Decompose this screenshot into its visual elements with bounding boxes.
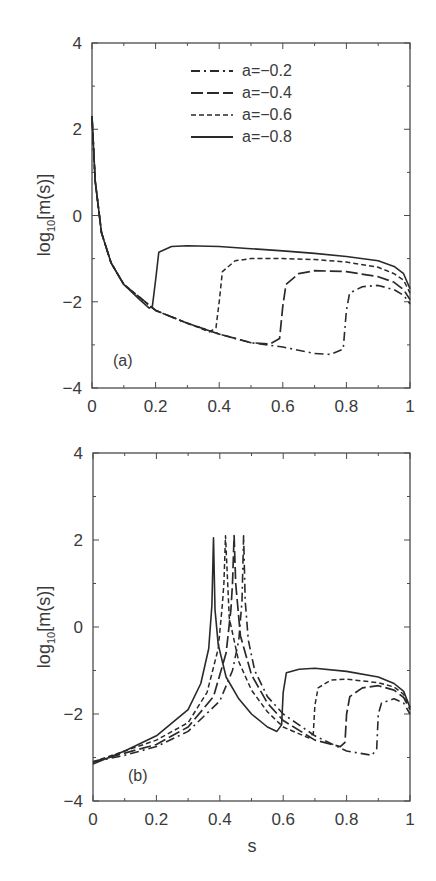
y-tick-label: 2 — [74, 531, 83, 550]
x-tick-labels-a: 00.20.40.60.81 — [87, 397, 414, 416]
figure: 420−2−4 00.20.40.60.81 log10[m(s)] (a) a… — [0, 0, 436, 881]
ylabel-subscript: 10 — [45, 632, 57, 644]
y-tick-label: 0 — [73, 207, 82, 226]
y-tick-label: 4 — [73, 34, 82, 53]
ylabel-a: log10[m(s)] — [34, 174, 57, 256]
x-tick-label: 0.8 — [335, 397, 359, 416]
legend-label: a=−0.4 — [242, 84, 292, 101]
ylabel-log: log — [34, 644, 54, 668]
ylabel-log: log — [34, 232, 54, 256]
y-tick-label: −4 — [64, 792, 83, 811]
x-tick-label: 0.6 — [271, 397, 295, 416]
series-line-a-0-4 — [93, 536, 410, 762]
series-line-a-0-6 — [93, 536, 410, 762]
x-tick-label: 0.4 — [207, 397, 231, 416]
x-tick-label: 0.2 — [144, 397, 168, 416]
y-tick-label: 4 — [74, 444, 83, 463]
y-tick-label: −4 — [63, 379, 82, 398]
legend-label: a=−0.8 — [242, 128, 292, 145]
x-tick-label: 1 — [405, 397, 414, 416]
x-tick-label: 0.8 — [335, 810, 359, 829]
y-tick-labels-a: 420−2−4 — [63, 34, 82, 398]
series-line-a-0-2 — [92, 116, 410, 354]
x-tick-label: 1 — [405, 810, 414, 829]
panel-a: 420−2−4 00.20.40.60.81 log10[m(s)] (a) a… — [34, 34, 415, 416]
x-tick-label: 0.4 — [208, 810, 232, 829]
series-line-a-0-4 — [92, 116, 410, 344]
x-tick-label: 0.6 — [271, 810, 295, 829]
panel-b: 420−2−4 00.20.40.60.81 log10[m(s)] (b) s — [34, 444, 415, 856]
xlabel-b: s — [248, 836, 257, 856]
panel-label-a: (a) — [113, 352, 133, 369]
ylabel-subscript: 10 — [45, 220, 57, 232]
x-tick-labels-b: 00.20.40.60.81 — [88, 810, 414, 829]
x-tick-label: 0.2 — [145, 810, 169, 829]
ylabel-rest: [m(s)] — [34, 586, 54, 632]
x-tick-label: 0 — [87, 397, 96, 416]
y-tick-labels-b: 420−2−4 — [64, 444, 83, 811]
legend: a=−0.2a=−0.4a=−0.6a=−0.8 — [191, 62, 292, 145]
y-tick-label: 2 — [73, 120, 82, 139]
curves-a — [92, 116, 410, 354]
legend-label: a=−0.6 — [242, 106, 292, 123]
panel-label-b: (b) — [128, 767, 148, 784]
y-tick-label: −2 — [63, 293, 82, 312]
series-line-a-0-8 — [93, 538, 410, 764]
x-tick-label: 0 — [88, 810, 97, 829]
curves-b — [93, 536, 410, 764]
ylabel-rest: [m(s)] — [34, 174, 54, 220]
series-line-a-0-8 — [92, 116, 410, 308]
legend-label: a=−0.2 — [242, 62, 292, 79]
y-tick-label: 0 — [74, 618, 83, 637]
y-tick-label: −2 — [64, 705, 83, 724]
series-line-a-0-2 — [93, 536, 410, 762]
ylabel-b: log10[m(s)] — [34, 586, 57, 668]
